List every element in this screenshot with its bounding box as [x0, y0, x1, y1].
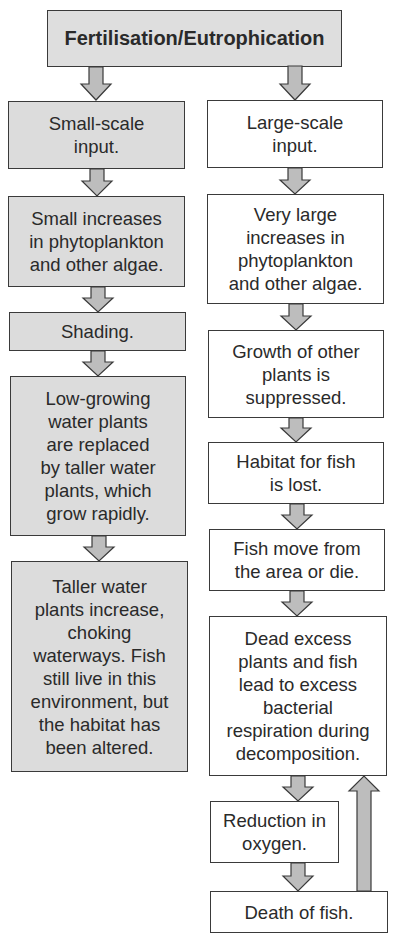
down-arrow-icon [82, 287, 114, 313]
right-box-large-scale-input: Large-scale input. [207, 100, 383, 168]
down-arrow-icon [81, 169, 113, 197]
right-box-death-of-fish: Death of fish. [210, 891, 388, 933]
down-arrow-icon [279, 168, 311, 195]
down-arrow-icon [280, 418, 312, 443]
down-arrow-icon [282, 863, 314, 892]
down-arrow-icon [82, 351, 114, 377]
feedback-up-arrow-icon [348, 776, 380, 892]
right-box-reduction-oxygen: Reduction in oxygen. [210, 801, 339, 863]
down-arrow-icon [281, 591, 313, 617]
right-box-very-large-increases: Very large increases in phytoplankton an… [207, 194, 384, 304]
right-box-dead-excess: Dead excess plants and fish lead to exce… [209, 616, 387, 776]
down-arrow-icon [279, 66, 311, 101]
right-box-habitat-lost: Habitat for fish is lost. [208, 442, 384, 504]
right-box-fish-move: Fish move from the area or die. [209, 529, 385, 591]
title-text: Fertilisation/Eutrophication [64, 27, 324, 50]
right-box-growth-suppressed: Growth of other plants is suppressed. [208, 330, 384, 418]
left-box-small-increases: Small increases in phytoplankton and oth… [8, 196, 185, 287]
down-arrow-icon [83, 536, 115, 562]
left-box-small-scale-input: Small-scale input. [8, 101, 185, 169]
down-arrow-icon [282, 776, 314, 802]
title-box: Fertilisation/Eutrophication [47, 10, 342, 67]
left-box-shading: Shading. [9, 312, 186, 351]
down-arrow-icon [281, 504, 313, 530]
left-box-taller-plants: Taller water plants increase, choking wa… [11, 561, 188, 772]
down-arrow-icon [280, 304, 312, 331]
down-arrow-icon [80, 67, 112, 101]
left-box-low-growing: Low-growing water plants are replaced by… [10, 376, 186, 536]
